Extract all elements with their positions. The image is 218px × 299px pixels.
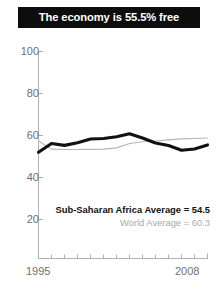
chart-figure: The economy is 55.5% free bbox=[0, 0, 218, 299]
chart-legend: Sub-Saharan Africa Average = 54.5 World … bbox=[40, 203, 210, 229]
y-tick-label-40: 40 bbox=[5, 172, 39, 183]
x-tick-label-end: 2008 bbox=[175, 266, 199, 277]
y-tick-label-100: 100 bbox=[5, 46, 39, 57]
y-tick-label-80: 80 bbox=[5, 88, 39, 99]
chart-plot-area: 100 80 60 40 20 1995 2008 Sub-Saharan Af… bbox=[0, 0, 218, 299]
y-tick-label-20: 20 bbox=[5, 214, 39, 225]
legend-item-sub-saharan-africa: Sub-Saharan Africa Average = 54.5 bbox=[40, 203, 210, 216]
legend-item-world-average: World Average = 60.3 bbox=[40, 216, 210, 229]
x-tick-label-start: 1995 bbox=[26, 266, 50, 277]
y-tick-marks bbox=[39, 52, 44, 220]
y-tick-label-60: 60 bbox=[5, 130, 39, 141]
x-tick-marks bbox=[39, 254, 208, 259]
